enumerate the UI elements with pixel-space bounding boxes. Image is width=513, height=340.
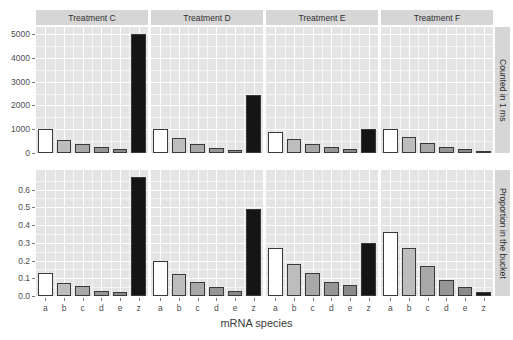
- facet-strip-col-3: Treatment F: [381, 10, 493, 25]
- x-tick-mark: [484, 298, 485, 301]
- gridline-major-v: [64, 170, 65, 296]
- bar-c: [75, 144, 90, 154]
- y-tick-label: 0.4: [18, 221, 30, 230]
- bar-z: [131, 177, 146, 296]
- y-tick-label: 4000: [11, 54, 30, 63]
- y-tick-label: 0.3: [18, 239, 30, 248]
- gridline-major-v: [198, 170, 199, 296]
- gridline-minor-v: [418, 170, 419, 296]
- y-tick-mark: [32, 153, 35, 154]
- gridline-minor-v: [244, 27, 245, 153]
- bar-c: [190, 144, 205, 153]
- facet-strip-col-2: Treatment E: [266, 10, 378, 25]
- y-tick-mark: [32, 105, 35, 106]
- y-tick-label: 5000: [11, 30, 30, 39]
- gridline-minor-v: [92, 170, 93, 296]
- x-tick-mark: [120, 298, 121, 301]
- x-tick-label: z: [476, 304, 492, 313]
- gridline-minor-v: [341, 27, 342, 153]
- gridline-major-v: [350, 170, 351, 296]
- x-tick-mark: [139, 298, 140, 301]
- x-tick-mark: [216, 298, 217, 301]
- x-tick-label: b: [56, 304, 72, 313]
- panel-3-1: [381, 170, 493, 296]
- gridline-minor-v: [92, 27, 93, 153]
- bar-d: [439, 147, 454, 153]
- x-tick-mark: [160, 298, 161, 301]
- y-tick-label: 0.5: [18, 203, 30, 212]
- gridline-major-v: [101, 27, 102, 153]
- gridline-minor-v: [359, 170, 360, 296]
- x-tick-label: e: [112, 304, 128, 313]
- bar-b: [287, 139, 302, 153]
- bar-z: [131, 34, 146, 153]
- gridline-major-v: [350, 27, 351, 153]
- gridline-minor-v: [226, 27, 227, 153]
- gridline-minor-v: [111, 27, 112, 153]
- gridline-major-v: [216, 170, 217, 296]
- y-tick-label: 2000: [11, 101, 30, 110]
- gridline-major-v: [465, 170, 466, 296]
- bar-e: [228, 150, 243, 153]
- x-tick-mark: [350, 298, 351, 301]
- y-tick-mark: [32, 129, 35, 130]
- facet-strip-label: Proportion in the bucket: [498, 188, 508, 279]
- x-tick-label: e: [227, 304, 243, 313]
- x-tick-label: c: [190, 304, 206, 313]
- x-tick-mark: [198, 298, 199, 301]
- y-tick-mark: [32, 34, 35, 35]
- bar-a: [38, 129, 53, 153]
- gridline-major-v: [120, 170, 121, 296]
- bar-d: [94, 147, 109, 153]
- gridline-minor-v: [73, 170, 74, 296]
- y-tick-mark: [32, 243, 35, 244]
- x-tick-mark: [369, 298, 370, 301]
- bar-e: [113, 292, 128, 296]
- gridline-minor-v: [73, 27, 74, 153]
- bar-a: [38, 273, 53, 296]
- gridline-minor-v: [341, 170, 342, 296]
- bar-d: [94, 291, 109, 296]
- x-tick-label: a: [152, 304, 168, 313]
- gridline-minor-v: [359, 27, 360, 153]
- facet-strip-label: Treatment D: [183, 13, 230, 23]
- gridline-major-v: [484, 170, 485, 296]
- bar-e: [458, 287, 473, 296]
- bar-b: [402, 248, 417, 296]
- x-tick-mark: [390, 298, 391, 301]
- bar-d: [324, 147, 339, 153]
- panel-0-0: [36, 27, 148, 153]
- facet-strip-row-0: Counted in 1 ms: [495, 27, 510, 153]
- x-tick-label: a: [37, 304, 53, 313]
- y-tick-mark: [32, 190, 35, 191]
- y-tick-label: 0.1: [18, 274, 30, 283]
- bar-d: [209, 148, 224, 153]
- gridline-major-v: [198, 27, 199, 153]
- x-tick-mark: [254, 298, 255, 301]
- gridline-minor-v: [322, 170, 323, 296]
- x-tick-label: b: [286, 304, 302, 313]
- y-tick-mark: [32, 207, 35, 208]
- bar-a: [383, 129, 398, 153]
- gridline-major-v: [235, 170, 236, 296]
- x-tick-mark: [64, 298, 65, 301]
- x-tick-label: z: [361, 304, 377, 313]
- gridline-minor-v: [418, 27, 419, 153]
- y-tick-label: 1000: [11, 125, 30, 134]
- facet-strip-row-1: Proportion in the bucket: [495, 170, 510, 296]
- bar-z: [476, 151, 491, 153]
- facet-strip-col-1: Treatment D: [151, 10, 263, 25]
- bar-c: [420, 266, 435, 296]
- gridline-major-v: [484, 27, 485, 153]
- x-tick-label: c: [305, 304, 321, 313]
- x-tick-label: a: [267, 304, 283, 313]
- x-tick-mark: [446, 298, 447, 301]
- bar-a: [268, 248, 283, 296]
- bar-d: [439, 280, 454, 296]
- facet-strip-label: Treatment E: [299, 13, 346, 23]
- bar-c: [305, 273, 320, 296]
- gridline-minor-v: [244, 170, 245, 296]
- bar-d: [209, 287, 224, 296]
- y-tick-mark: [32, 278, 35, 279]
- x-tick-label: d: [323, 304, 339, 313]
